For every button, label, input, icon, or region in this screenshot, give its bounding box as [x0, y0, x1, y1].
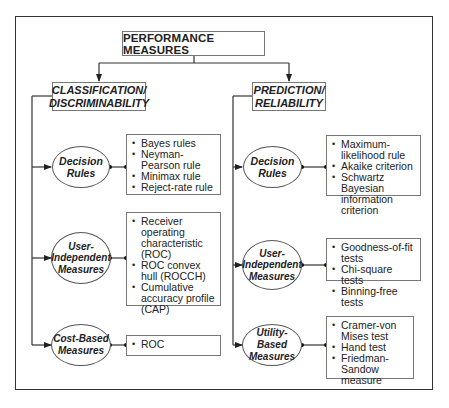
- node-label: Measures: [249, 351, 295, 363]
- node-left-cost-based: Cost-Based Measures: [51, 324, 111, 366]
- list-item: Cumulative accuracy profile (CAP): [132, 282, 216, 315]
- root-label: PERFORMANCE MEASURES: [123, 32, 264, 56]
- list-item: Friedman-Sandow measure: [332, 353, 409, 386]
- node-label: Measures: [249, 271, 295, 283]
- node-label: Measures: [58, 345, 104, 357]
- list-left-user-independent: Receiver operating characteristic (ROC) …: [126, 212, 221, 306]
- list-item: Binning-free tests: [332, 286, 416, 308]
- list-item: Reject-rate rule: [132, 182, 216, 193]
- node-label: Decision: [59, 155, 103, 167]
- list-item: Receiver operating characteristic (ROC): [132, 216, 216, 260]
- node-label: Utility-Based: [243, 327, 301, 351]
- list-item: ROC: [132, 339, 216, 350]
- node-right-user-independent: User- Independent Measures: [242, 240, 302, 290]
- list-right-utility-based: Cramer-von Mises test Hand test Friedman…: [326, 316, 414, 379]
- category-classification: CLASSIFICATION/ DISCRIMINABILITY: [52, 82, 146, 111]
- category-title-line: CLASSIFICATION/: [52, 84, 147, 97]
- node-label: Independent: [51, 252, 110, 264]
- node-label: Decision: [251, 155, 295, 167]
- category-title-line: PREDICTION/: [254, 84, 325, 97]
- list-item: Schwartz Bayesian information criterion: [332, 172, 416, 216]
- list-item: ROC convex hull (ROCCH): [132, 260, 216, 282]
- list-item: Neyman-Pearson rule: [132, 149, 216, 171]
- list-left-cost-based: ROC: [126, 335, 221, 356]
- list-left-decision-rules: Bayes rules Neyman-Pearson rule Minimax …: [126, 134, 221, 195]
- list-item: Goodness-of-fit tests: [332, 242, 416, 264]
- node-label: Independent: [242, 259, 301, 271]
- node-left-user-independent: User- Independent Measures: [51, 232, 111, 284]
- node-label: Measures: [58, 264, 104, 276]
- category-prediction: PREDICTION/ RELIABILITY: [252, 82, 326, 111]
- node-label: Cost-Based: [53, 333, 109, 345]
- node-right-decision-rules: Decision Rules: [243, 146, 302, 188]
- node-label: Rules: [67, 167, 96, 179]
- list-item: Cramer-von Mises test: [332, 320, 409, 342]
- node-label: User-: [259, 248, 285, 260]
- node-left-decision-rules: Decision Rules: [52, 146, 110, 188]
- node-right-utility-based: Utility-Based Measures: [242, 324, 302, 366]
- root-node-performance-measures: PERFORMANCE MEASURES: [122, 31, 265, 56]
- node-label: User-: [68, 241, 94, 253]
- node-label: Rules: [258, 167, 287, 179]
- category-title-line: DISCRIMINABILITY: [49, 97, 149, 110]
- category-title-line: RELIABILITY: [255, 97, 323, 110]
- list-item: Chi-square tests: [332, 264, 416, 286]
- list-item: Maximum-likelihood rule: [332, 139, 416, 161]
- list-right-decision-rules: Maximum-likelihood rule Akaike criterion…: [326, 135, 421, 196]
- list-right-user-independent: Goodness-of-fit tests Chi-square tests B…: [326, 238, 421, 281]
